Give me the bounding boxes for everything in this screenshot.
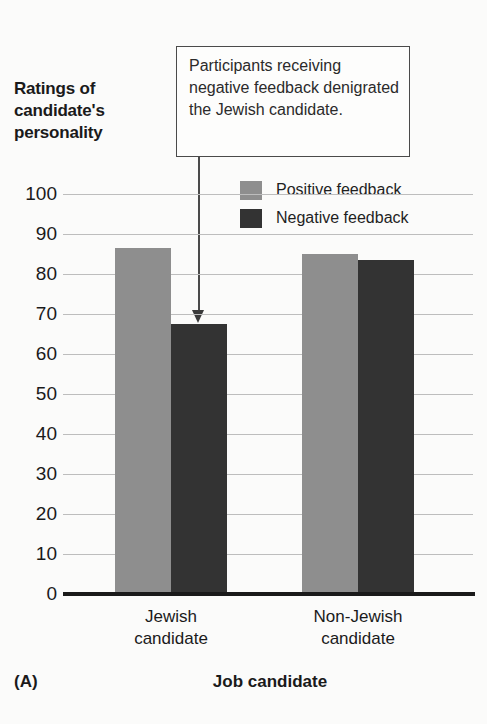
annotation-callout-text: Participants receiving negative feedback… (189, 55, 401, 121)
x-axis-category-label-jewish: Jewishcandidate (91, 606, 251, 650)
y-axis-title: Ratings of candidate's personality (14, 78, 164, 144)
gridline (63, 194, 473, 195)
x-axis-category-line: Jewish (91, 606, 251, 628)
bar-jewish-negative (171, 324, 227, 594)
y-axis-tick-label: 30 (11, 463, 57, 485)
bar-non-jewish-negative (358, 260, 414, 594)
x-axis-title: Job candidate (140, 672, 400, 692)
y-axis-tick-label: 70 (11, 303, 57, 325)
x-axis-category-line: Non-Jewish (278, 606, 438, 628)
y-axis-tick-label: 20 (11, 503, 57, 525)
x-axis-category-line: candidate (278, 628, 438, 650)
y-axis-tick-label: 90 (11, 223, 57, 245)
y-axis-tick-label: 40 (11, 423, 57, 445)
y-axis-tick-label: 80 (11, 263, 57, 285)
bar-chart-figure: Ratings of candidate's personality Parti… (0, 0, 487, 724)
x-axis-line (63, 592, 475, 596)
bar-non-jewish-positive (302, 254, 358, 594)
y-axis-tick-label: 100 (11, 183, 57, 205)
plot-area (63, 194, 473, 594)
y-axis-tick-label: 0 (11, 583, 57, 605)
x-axis-category-label-non-jewish: Non-Jewishcandidate (278, 606, 438, 650)
annotation-callout-box: Participants receiving negative feedback… (176, 46, 410, 157)
gridline (63, 234, 473, 235)
y-axis-tick-label: 50 (11, 383, 57, 405)
panel-label: (A) (14, 672, 38, 692)
x-axis-category-line: candidate (91, 628, 251, 650)
y-axis-tick-label: 10 (11, 543, 57, 565)
y-axis-tick-labels: 0102030405060708090100 (7, 194, 57, 594)
y-axis-tick-label: 60 (11, 343, 57, 365)
bar-jewish-positive (115, 248, 171, 594)
